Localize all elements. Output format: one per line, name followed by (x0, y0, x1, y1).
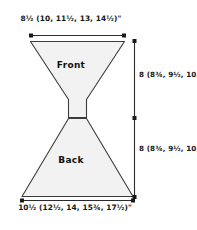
front-piece-shape (31, 42, 125, 118)
pattern-schematic-svg (0, 0, 197, 230)
bottom-width-measurement-label: 10½ (12½, 14, 15¾, 17½)" (0, 203, 150, 213)
top-width-measurement-label: 8½ (10, 11½, 13, 14½)" (0, 14, 142, 24)
front-piece-label: Front (0, 60, 142, 70)
pattern-diagram: 8½ (10, 11½, 13, 14½)" 10½ (12½, 14, 15¾… (0, 0, 197, 230)
back-height-measurement-label: 8 (8¾, 9½, 10, 10½)" (139, 144, 197, 154)
bottom-dimension-line (20, 199, 135, 203)
back-piece-label: Back (0, 155, 142, 165)
top-dimension-line (29, 34, 126, 38)
front-height-measurement-label: 8 (8¾, 9½, 10, 10½)" (139, 70, 197, 80)
